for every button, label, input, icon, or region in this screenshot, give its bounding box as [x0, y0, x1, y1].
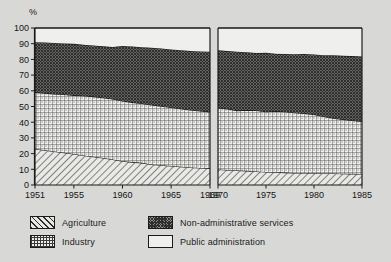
- legend-label-industry: Industry: [62, 237, 95, 247]
- chart-legend: Agriculture Non-administrative services …: [30, 213, 370, 251]
- legend-item-public-administration: Public administration: [148, 235, 370, 248]
- legend-swatch-agriculture-icon: [30, 216, 55, 229]
- y-axis-ticks: 0102030405060708090100: [14, 23, 35, 190]
- panel-right: [218, 28, 362, 185]
- panels-group: [35, 28, 362, 185]
- legend-item-non-administrative-services: Non-administrative services: [148, 216, 370, 229]
- y-tick-label: 10: [19, 165, 29, 175]
- legend-label-non-administrative-services: Non-administrative services: [180, 218, 293, 228]
- legend-swatch-public-administration-icon: [148, 235, 173, 248]
- y-tick-label: 90: [19, 39, 29, 49]
- legend-item-industry: Industry: [30, 235, 148, 248]
- x-axis-ticks: 195119551960196519691970197519801985: [25, 185, 372, 200]
- x-tick-label: 1965: [161, 190, 181, 200]
- x-tick-label: 1980: [304, 190, 324, 200]
- y-tick-label: 60: [19, 86, 29, 96]
- y-tick-label: 20: [19, 149, 29, 159]
- legend-label-public-administration: Public administration: [180, 237, 265, 247]
- x-tick-label: 1975: [256, 190, 276, 200]
- chart-plot-area: 0102030405060708090100 19511955196019651…: [0, 0, 391, 205]
- y-tick-label: 70: [19, 70, 29, 80]
- legend-label-agriculture: Agriculture: [62, 218, 106, 228]
- x-tick-label: 1960: [112, 190, 132, 200]
- y-tick-label: 40: [19, 118, 29, 128]
- x-tick-label: 1951: [25, 190, 45, 200]
- y-axis: 0102030405060708090100: [14, 23, 35, 190]
- y-tick-label: 50: [19, 102, 29, 112]
- y-tick-label: 100: [14, 23, 29, 33]
- y-tick-label: 80: [19, 55, 29, 65]
- legend-swatch-industry-icon: [30, 235, 55, 248]
- stacked-area-chart: 0102030405060708090100 19511955196019651…: [0, 0, 391, 205]
- x-tick-label: 1985: [352, 190, 372, 200]
- y-tick-label: 30: [19, 133, 29, 143]
- panel-left: [35, 28, 210, 185]
- legend-item-agriculture: Agriculture: [30, 216, 148, 229]
- chart-screenshot: %: [0, 0, 391, 262]
- y-tick-label: 0: [24, 180, 29, 190]
- x-tick-label: 1955: [64, 190, 84, 200]
- x-tick-label: 1970: [208, 190, 228, 200]
- legend-swatch-non-administrative-services-icon: [148, 216, 173, 229]
